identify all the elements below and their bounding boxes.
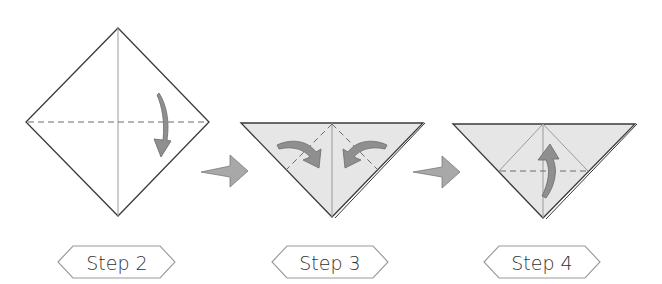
step-2-figure (26, 28, 209, 216)
origami-diagram: Step 2 Step 3 Step 4 (0, 0, 662, 284)
step-label-text: Step 2 (86, 252, 147, 274)
step-4-label: Step 4 (484, 246, 600, 278)
step-3-figure (241, 123, 425, 218)
step-label-text: Step 4 (511, 252, 572, 274)
step-label-text: Step 3 (299, 252, 360, 274)
step-3-label: Step 3 (272, 246, 388, 278)
step-4-figure (453, 124, 637, 219)
right-arrow-icon (201, 155, 248, 187)
right-arrow-icon (413, 156, 460, 188)
step-2-label: Step 2 (58, 246, 175, 278)
